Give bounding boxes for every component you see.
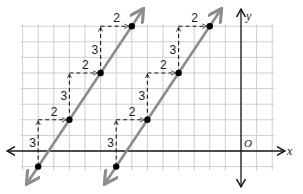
x-axis-label: x xyxy=(286,144,293,158)
rise-label: 3 xyxy=(29,136,36,150)
run-label: 2 xyxy=(160,58,167,72)
run-label: 2 xyxy=(82,58,89,72)
point xyxy=(66,117,72,123)
point xyxy=(35,163,41,169)
point xyxy=(175,70,181,76)
coordinate-plane-figure: x y O 323232323232 xyxy=(0,0,303,194)
point xyxy=(97,70,103,76)
rise-label: 3 xyxy=(170,43,177,57)
rise-label: 3 xyxy=(92,43,99,57)
point xyxy=(113,163,119,169)
run-label: 2 xyxy=(113,11,120,25)
point xyxy=(207,23,213,29)
run-label: 2 xyxy=(191,11,198,25)
lines: 323232323232 xyxy=(27,10,220,183)
run-label: 2 xyxy=(51,105,58,119)
axes: x y O xyxy=(8,9,293,186)
y-axis-label: y xyxy=(245,9,252,23)
rise-label: 3 xyxy=(60,89,67,103)
point xyxy=(129,23,135,29)
rise-label: 3 xyxy=(107,136,114,150)
point xyxy=(144,117,150,123)
rise-label: 3 xyxy=(138,89,145,103)
run-label: 2 xyxy=(129,105,136,119)
origin-label: O xyxy=(244,137,252,149)
